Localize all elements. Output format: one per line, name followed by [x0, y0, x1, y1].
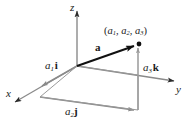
x-component-label: a1 i — [45, 60, 58, 72]
terminal-point-dot — [137, 42, 142, 47]
z-component-subscript: 3 — [149, 67, 152, 74]
vector-a-label: a — [95, 42, 101, 53]
z-axis-label: z — [70, 2, 74, 13]
base-edge-origin-to-y — [77, 66, 138, 75]
vector-a-arrow — [77, 46, 134, 66]
point-coordinates-label: (a1, a2, a3) — [104, 26, 147, 37]
unit-vector-j: j — [74, 105, 78, 117]
z-component-label: a3 k — [143, 62, 159, 74]
base-edge-x-to-corner — [40, 97, 138, 110]
y-axis-label: y — [176, 84, 181, 95]
x-component-subscript: 1 — [51, 65, 54, 72]
coord-close-paren: ) — [144, 25, 148, 36]
y-component-label: a2j — [65, 106, 78, 118]
x-axis-label: x — [6, 88, 11, 99]
vector-components-figure: z y x (a1, a2, a3) a a1 i a2j a3 k — [0, 0, 188, 124]
diagram-canvas — [0, 0, 188, 124]
unit-vector-k: k — [153, 61, 159, 73]
unit-vector-i: i — [55, 59, 58, 71]
